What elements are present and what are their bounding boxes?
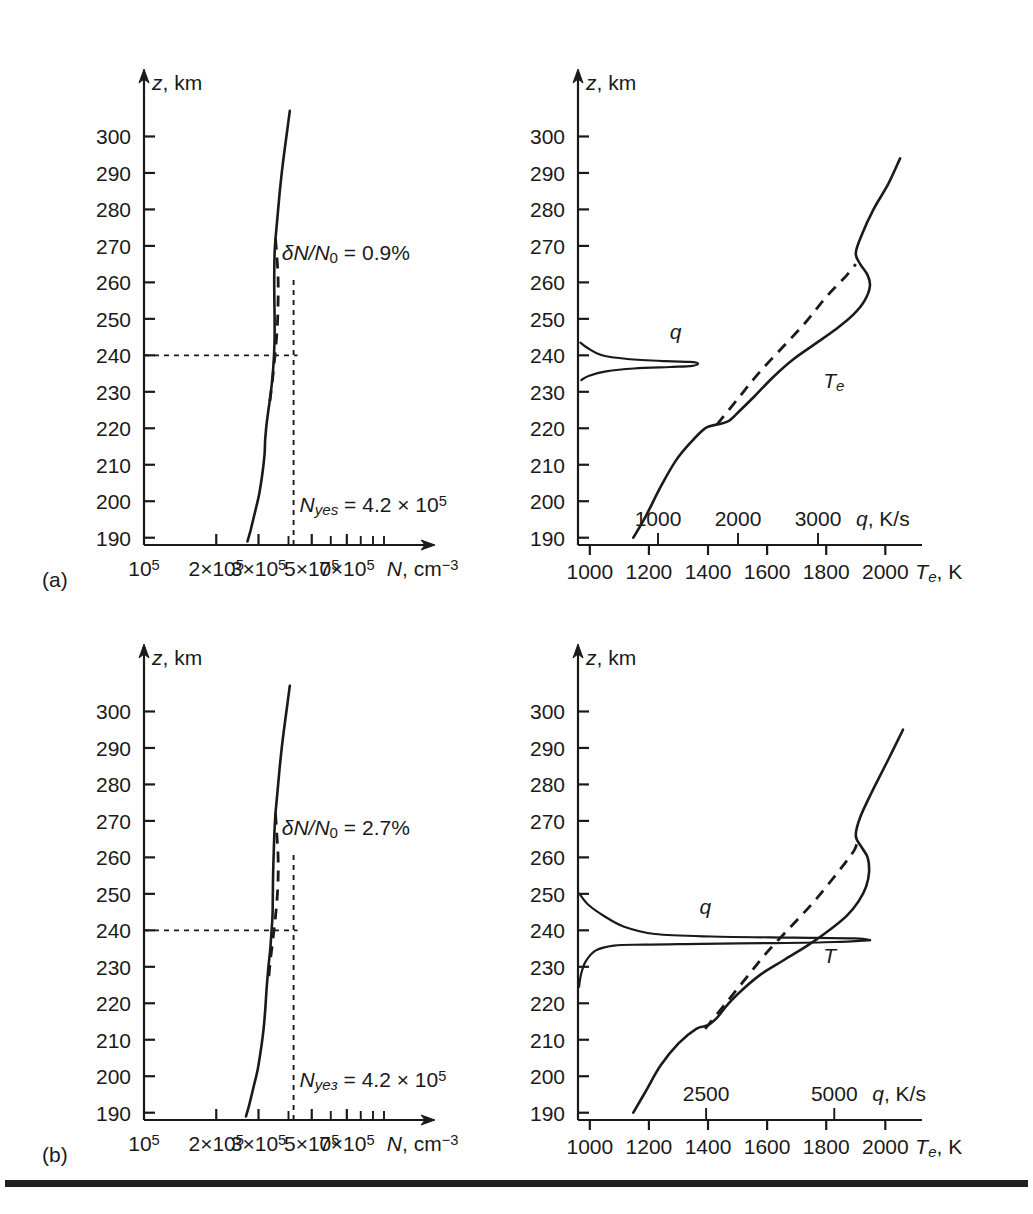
y-axis-tick-label: 260: [530, 271, 565, 294]
x-axis-tick-label: 7×105: [319, 1132, 374, 1155]
y-axis-tick-label: 300: [96, 700, 131, 723]
q-axis-title: q, K/s: [872, 1082, 926, 1105]
bottom-rule: [5, 1180, 1028, 1187]
te-axis-tick-label: 1600: [744, 560, 791, 583]
q-axis-tick-label: 3000: [795, 507, 842, 530]
y-axis-tick-label: 290: [530, 737, 565, 760]
panel-b-right-plot: z, km19020021022023024025026027028029030…: [520, 605, 990, 1205]
y-axis-tick-label: 250: [530, 308, 565, 331]
q-axis-title: q, K/s: [856, 507, 910, 530]
t-solid: [633, 730, 903, 1113]
q-curve-label: q: [700, 895, 712, 918]
y-axis-tick-label: 290: [96, 737, 131, 760]
y-axis-tick-label: 280: [96, 773, 131, 796]
y-axis-tick-label: 280: [530, 198, 565, 221]
y-axis-tick-label: 250: [96, 308, 131, 331]
figure-root: z, km19020021022023024025026027028029030…: [0, 0, 1033, 1214]
te-axis-tick-label: 1400: [685, 560, 732, 583]
panel-a-left-plot: z, km19020021022023024025026027028029030…: [20, 30, 520, 630]
y-axis-title: z, km: [585, 646, 636, 669]
te-axis-tick-label: 1200: [626, 1135, 673, 1158]
q-axis-tick-label: 1000: [635, 507, 682, 530]
y-axis-tick-label: 230: [96, 381, 131, 404]
electron-density-solid: [246, 686, 290, 1117]
q-curve-label: q: [670, 320, 682, 343]
y-axis-tick-label: 270: [530, 810, 565, 833]
y-axis-tick-label: 280: [530, 773, 565, 796]
electron-density-solid: [248, 111, 290, 542]
x-axis-tick-label: 7×105: [319, 557, 374, 580]
delta-n-label: δN/N0 = 0.9%: [282, 241, 410, 266]
y-axis-title: z, km: [585, 71, 636, 94]
q-spike: [580, 343, 698, 381]
x-axis-tick-label: 3×105: [231, 557, 286, 580]
y-axis-tick-label: 290: [530, 162, 565, 185]
y-axis-tick-label: 270: [96, 810, 131, 833]
y-axis-tick-label: 270: [96, 235, 131, 258]
y-axis-title: z, km: [151, 71, 202, 94]
y-axis-tick-label: 210: [96, 1029, 131, 1052]
te-axis-tick-label: 1600: [744, 1135, 791, 1158]
y-axis-tick-label: 240: [96, 344, 131, 367]
y-axis-tick-label: 240: [530, 919, 565, 942]
y-axis-tick-label: 190: [96, 527, 131, 550]
te-axis-tick-label: 1200: [626, 560, 673, 583]
y-axis-tick-label: 290: [96, 162, 131, 185]
y-axis-tick-label: 210: [530, 454, 565, 477]
y-axis-tick-label: 210: [96, 454, 131, 477]
x-axis-tick-label: 3×105: [231, 1132, 286, 1155]
y-axis-tick-label: 300: [530, 125, 565, 148]
y-axis-tick-label: 260: [96, 271, 131, 294]
y-axis-tick-label: 190: [530, 527, 565, 550]
x-axis-tick-label: 105: [128, 557, 160, 580]
q-axis-tick-label: 5000: [811, 1082, 858, 1105]
x-axis-title: N, cm−3: [387, 1132, 459, 1155]
y-axis-tick-label: 200: [530, 1065, 565, 1088]
te-axis-tick-label: 2000: [862, 1135, 909, 1158]
y-axis-tick-label: 200: [530, 490, 565, 513]
y-axis-tick-label: 220: [96, 417, 131, 440]
y-axis-tick-label: 240: [530, 344, 565, 367]
y-axis-tick-label: 230: [530, 956, 565, 979]
t-curve-label: T: [823, 944, 838, 967]
delta-n-label: δN/N0 = 2.7%: [282, 816, 410, 841]
te-axis-title: Te, K: [915, 560, 962, 585]
te-axis-tick-label: 1800: [803, 560, 850, 583]
te-curve-label: Te: [823, 369, 844, 394]
y-axis-tick-label: 230: [530, 381, 565, 404]
y-axis-tick-label: 230: [96, 956, 131, 979]
n-yez-label: Nyeз = 4.2 × 105: [300, 1068, 447, 1093]
y-axis-tick-label: 300: [530, 700, 565, 723]
y-axis-tick-label: 220: [530, 992, 565, 1015]
y-axis-tick-label: 190: [96, 1102, 131, 1125]
y-axis-tick-label: 250: [96, 883, 131, 906]
y-axis-tick-label: 260: [530, 846, 565, 869]
y-axis-tick-label: 220: [530, 417, 565, 440]
y-axis-tick-label: 270: [530, 235, 565, 258]
panel-b-left-plot: z, km19020021022023024025026027028029030…: [20, 605, 520, 1205]
q-axis-tick-label: 2000: [715, 507, 762, 530]
te-axis-tick-label: 2000: [862, 560, 909, 583]
y-axis-tick-label: 190: [530, 1102, 565, 1125]
te-axis-tick-label: 1400: [685, 1135, 732, 1158]
y-axis-tick-label: 280: [96, 198, 131, 221]
y-axis-tick-label: 250: [530, 883, 565, 906]
y-axis-tick-label: 200: [96, 1065, 131, 1088]
te-solid: [633, 158, 900, 537]
panel-a-right-plot: z, km19020021022023024025026027028029030…: [520, 30, 990, 630]
te-axis-tick-label: 1000: [566, 560, 613, 583]
x-axis-title: N, cm−3: [387, 557, 459, 580]
t-dashed-extrapolation: [705, 839, 857, 1029]
te-dashed-extrapolation: [717, 264, 856, 425]
y-axis-tick-label: 240: [96, 919, 131, 942]
x-axis-tick-label: 105: [128, 1132, 160, 1155]
y-axis-tick-label: 260: [96, 846, 131, 869]
y-axis-title: z, km: [151, 646, 202, 669]
te-axis-tick-label: 1800: [803, 1135, 850, 1158]
y-axis-tick-label: 220: [96, 992, 131, 1015]
y-axis-tick-label: 200: [96, 490, 131, 513]
te-axis-tick-label: 1000: [566, 1135, 613, 1158]
q-axis-tick-label: 2500: [683, 1082, 730, 1105]
te-axis-title: Te, K: [915, 1135, 962, 1160]
n-yes-label: Nyes = 4.2 × 105: [300, 493, 447, 518]
